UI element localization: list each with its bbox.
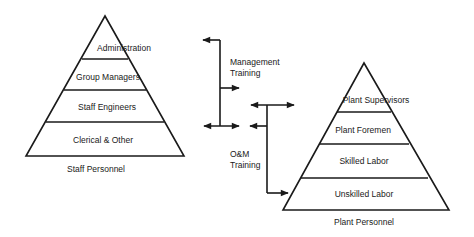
plant-pyramid-outline [283, 63, 449, 210]
om-training-label-line2: Training [230, 160, 261, 170]
plant-level-skilled-labor: Skilled Labor [339, 156, 388, 166]
staff-level-administration: Administration [97, 43, 151, 53]
staff-level-staff-engineers: Staff Engineers [78, 102, 136, 112]
om-training-connector: O&M Training [230, 105, 294, 193]
training-diagram: Administration Group Managers Staff Engi… [0, 0, 474, 237]
management-training-connector: Management Training [203, 40, 280, 126]
om-training-label-line1: O&M [230, 149, 249, 159]
staff-level-group-managers: Group Managers [76, 72, 140, 82]
staff-level-clerical-other: Clerical & Other [73, 135, 133, 145]
plant-level-unskilled-labor: Unskilled Labor [335, 189, 394, 199]
plant-pyramid: Plant Supervisors Plant Foremen Skilled … [283, 63, 449, 227]
plant-level-supervisors: Plant Supervisors [343, 95, 410, 105]
plant-pyramid-caption: Plant Personnel [334, 217, 394, 227]
management-training-label-line1: Management [230, 57, 280, 67]
management-training-label-line2: Training [230, 68, 261, 78]
staff-pyramid: Administration Group Managers Staff Engi… [26, 16, 184, 174]
plant-level-foremen: Plant Foremen [335, 125, 391, 135]
staff-pyramid-caption: Staff Personnel [67, 164, 125, 174]
